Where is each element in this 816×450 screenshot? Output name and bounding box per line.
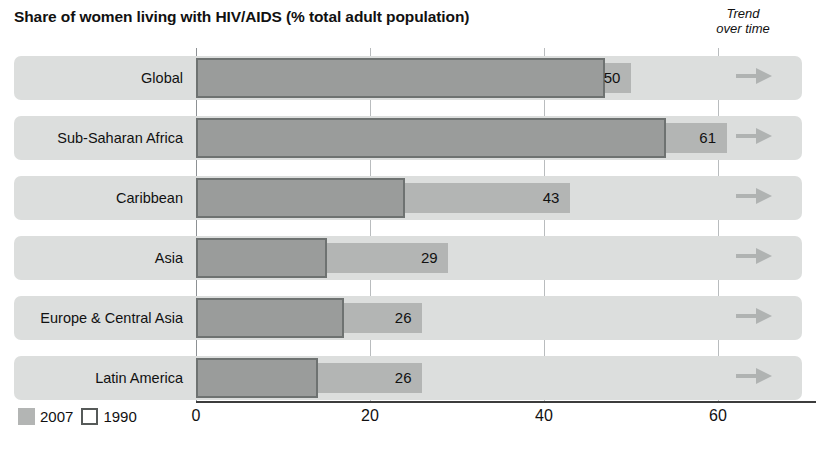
tick-label-20: 20: [350, 407, 390, 425]
bar-value-label-0: 50: [595, 63, 629, 93]
gridline-40: [544, 48, 545, 402]
table-row: Europe & Central Asia26: [14, 296, 802, 340]
page-title: Share of women living with HIV/AIDS (% t…: [14, 8, 469, 26]
bar-1990-1: [196, 118, 666, 158]
bar-1990-3: [196, 238, 327, 278]
bar-value-label-2: 43: [534, 183, 568, 213]
legend-item-2007: 2007: [18, 408, 73, 425]
trend-cell-1: [706, 116, 802, 160]
trend-header-line1: Trend: [688, 6, 798, 21]
arrow-right-icon: [734, 67, 774, 89]
chart-page: Share of women living with HIV/AIDS (% t…: [0, 0, 816, 450]
trend-cell-2: [706, 176, 802, 220]
legend-label-2007: 2007: [40, 408, 73, 425]
table-row: Asia29: [14, 236, 802, 280]
table-row: Global50: [14, 56, 802, 100]
tick-label-60: 60: [698, 407, 738, 425]
arrow-right-icon: [734, 127, 774, 149]
legend-label-1990: 1990: [103, 408, 136, 425]
trend-over-time-header: Trend over time: [688, 6, 798, 36]
bar-1990-5: [196, 358, 318, 398]
row-label-2: Caribbean: [14, 176, 192, 220]
trend-cell-5: [706, 356, 802, 400]
table-row: Latin America26: [14, 356, 802, 400]
table-row: Sub-Saharan Africa61: [14, 116, 802, 160]
row-label-0: Global: [14, 56, 192, 100]
gridline-20: [370, 48, 371, 402]
trend-cell-4: [706, 296, 802, 340]
bar-value-label-4: 26: [386, 303, 420, 333]
legend-swatch-2007: [18, 408, 35, 425]
row-label-4: Europe & Central Asia: [14, 296, 192, 340]
arrow-right-icon: [734, 307, 774, 329]
row-label-1: Sub-Saharan Africa: [14, 116, 192, 160]
tick-label-40: 40: [524, 407, 564, 425]
table-row: Caribbean43: [14, 176, 802, 220]
x-axis-line: [196, 401, 816, 403]
trend-cell-3: [706, 236, 802, 280]
legend-swatch-1990: [81, 408, 98, 425]
arrow-right-icon: [734, 367, 774, 389]
bar-value-label-3: 29: [412, 243, 446, 273]
bar-1990-4: [196, 298, 344, 338]
row-label-5: Latin America: [14, 356, 192, 400]
bar-1990-0: [196, 58, 605, 98]
trend-cell-0: [706, 56, 802, 100]
bar-value-label-5: 26: [386, 363, 420, 393]
gridline-0: [196, 48, 197, 402]
bar-1990-2: [196, 178, 405, 218]
legend: 20071990: [18, 408, 137, 425]
arrow-right-icon: [734, 247, 774, 269]
legend-item-1990: 1990: [81, 408, 136, 425]
row-label-3: Asia: [14, 236, 192, 280]
arrow-right-icon: [734, 187, 774, 209]
gridline-60: [718, 48, 719, 402]
plot-area: Global50Sub-Saharan Africa61Caribbean43A…: [0, 48, 816, 402]
trend-header-line2: over time: [688, 21, 798, 36]
tick-label-0: 0: [176, 407, 216, 425]
